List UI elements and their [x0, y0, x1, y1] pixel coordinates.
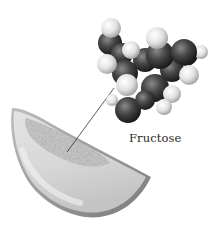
fructose-illustration: [0, 0, 213, 229]
fructose-molecule: [97, 18, 208, 123]
melon-slice: [11, 108, 151, 217]
fructose-label: Fructose: [129, 131, 181, 145]
